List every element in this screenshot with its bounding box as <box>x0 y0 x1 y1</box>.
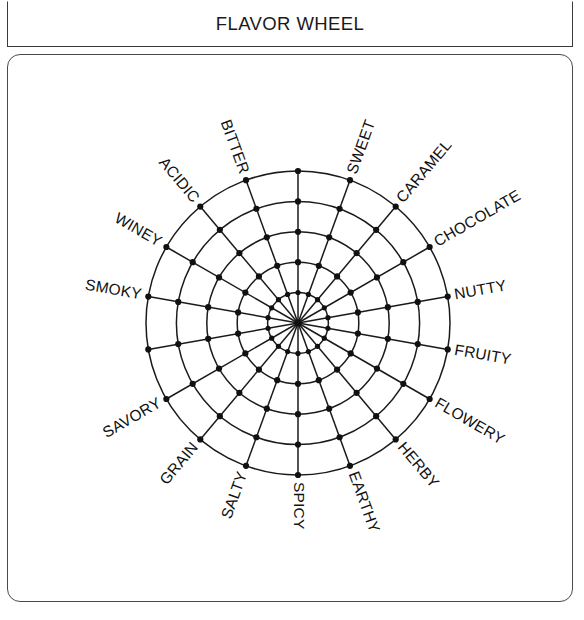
chart-panel <box>7 54 573 602</box>
flavor-wheel-page: FLAVOR WHEEL SWEETCARAMELCHOCOLATENUTTYF… <box>0 0 584 620</box>
page-title: FLAVOR WHEEL <box>216 13 364 35</box>
header-bar: FLAVOR WHEEL <box>7 1 573 47</box>
